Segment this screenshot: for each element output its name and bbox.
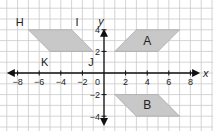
coordinate-grid-svg: HIJKAB−8−6−4−2246842−2−40xy (0, 0, 213, 131)
vertex-label-i: I (75, 16, 78, 28)
x-tick-label: 2 (123, 77, 128, 87)
x-tick-label: −6 (34, 77, 44, 87)
vertex-label-h: H (16, 16, 24, 28)
x-tick-label: 8 (188, 77, 193, 87)
y-tick-label: −2 (90, 90, 100, 100)
vertex-label-k: K (41, 56, 49, 68)
x-axis-left-arrow-icon (7, 69, 15, 77)
y-tick-label: 2 (95, 47, 100, 57)
y-tick-label: −4 (90, 112, 100, 122)
x-tick-label: −4 (56, 77, 66, 87)
grid-lines (0, 0, 213, 131)
shape-label-b: B (143, 98, 151, 112)
shape-label-a: A (143, 34, 151, 48)
x-axis-label: x (202, 67, 209, 79)
x-tick-label: 6 (166, 77, 171, 87)
origin-label: 0 (95, 77, 100, 87)
x-axis-right-arrow-icon (192, 69, 200, 77)
y-axis-down-arrow-icon (100, 118, 108, 126)
y-tick-label: 4 (95, 25, 100, 35)
x-tick-label: 4 (145, 77, 150, 87)
x-tick-label: −2 (77, 77, 87, 87)
coordinate-plane: HIJKAB−8−6−4−2246842−2−40xy (0, 0, 213, 131)
vertex-label-j: J (88, 56, 94, 68)
x-tick-label: −8 (12, 77, 22, 87)
